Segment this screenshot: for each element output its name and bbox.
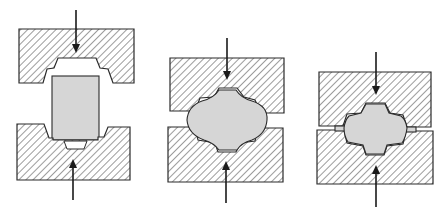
billet bbox=[52, 76, 99, 140]
stage-3 bbox=[317, 52, 433, 207]
lower-die-center-pocket bbox=[64, 141, 87, 149]
stage-2 bbox=[168, 38, 284, 203]
forging-diagram bbox=[0, 0, 439, 221]
stage-1 bbox=[17, 10, 134, 200]
upward-force-arrow-icon bbox=[372, 165, 380, 207]
